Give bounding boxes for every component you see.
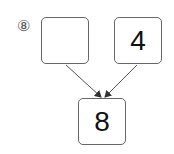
arrow-left-icon: [66, 65, 101, 97]
answer-box-left[interactable]: [41, 17, 89, 64]
arrow-right-icon: [105, 65, 137, 97]
number-box-total: 8: [78, 98, 126, 145]
number-box-right: 4: [114, 17, 162, 64]
